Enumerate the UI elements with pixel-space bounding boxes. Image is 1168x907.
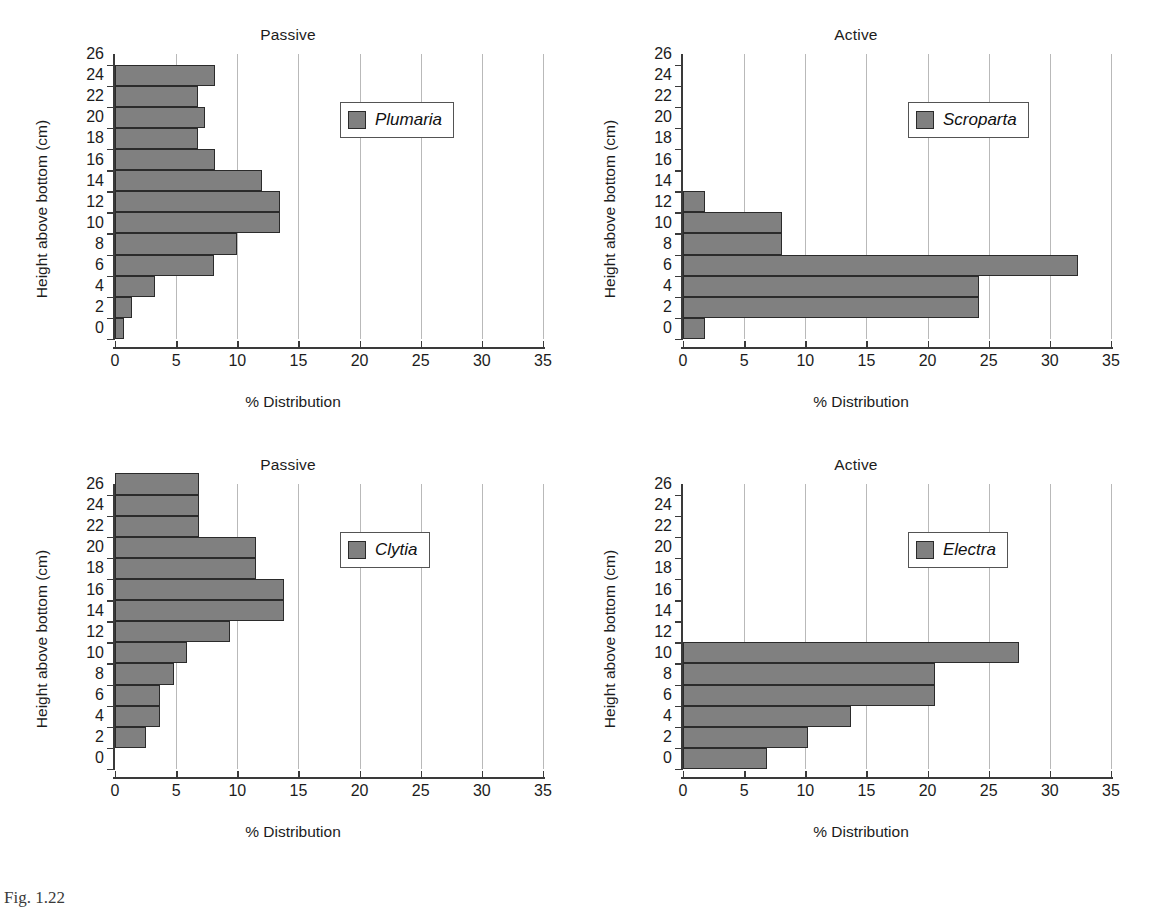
bar — [683, 212, 782, 233]
x-axis-label: % Distribution — [63, 823, 523, 841]
x-axis-tick-label: 30 — [1041, 782, 1059, 800]
x-axis-tick — [237, 341, 238, 348]
legend-swatch-icon — [348, 111, 366, 129]
gridline — [237, 484, 238, 769]
y-axis-tick — [675, 318, 683, 319]
panel-clytia: Passive051015202530350246810121416182022… — [8, 450, 568, 880]
bar — [115, 255, 214, 276]
y-axis-tick-label: 22 — [654, 87, 672, 105]
y-axis-tick — [675, 170, 683, 171]
x-axis-tick — [683, 341, 684, 348]
y-axis-tick — [107, 128, 115, 129]
y-axis-tick — [107, 149, 115, 150]
y-axis-tick-label: 14 — [654, 172, 672, 190]
y-axis-tick-label: 24 — [86, 66, 104, 84]
y-axis-tick — [107, 170, 115, 171]
x-axis-tick-label: 30 — [473, 782, 491, 800]
y-axis-tick — [107, 212, 115, 213]
legend[interactable]: Scroparta — [908, 102, 1029, 138]
y-axis-tick-label: 16 — [86, 151, 104, 169]
x-axis-tick — [928, 341, 929, 348]
gridline — [543, 54, 544, 339]
y-axis-tick-label: 8 — [663, 665, 672, 683]
x-axis-tick — [1050, 341, 1051, 348]
y-axis-tick-label: 4 — [95, 707, 104, 725]
plot-area: 0510152025303502468101214161820222426Plu… — [113, 54, 543, 339]
legend[interactable]: Plumaria — [340, 102, 454, 138]
x-axis-tick-label: 20 — [919, 782, 937, 800]
x-axis-tick-label: 35 — [534, 352, 552, 370]
y-axis-tick-label: 10 — [86, 644, 104, 662]
y-axis-tick-label: 24 — [86, 496, 104, 514]
bar — [683, 727, 808, 748]
y-axis-tick — [107, 276, 115, 277]
y-axis-tick — [675, 516, 683, 517]
y-axis-tick-label: 6 — [95, 256, 104, 274]
x-axis-tick-label: 35 — [1102, 782, 1120, 800]
y-axis-tick-label: 0 — [95, 319, 104, 337]
y-axis-tick-label: 12 — [654, 193, 672, 211]
bar — [683, 663, 935, 684]
x-axis-tick-label: 5 — [172, 352, 181, 370]
x-axis-tick-label: 15 — [290, 352, 308, 370]
legend[interactable]: Electra — [908, 532, 1008, 568]
y-axis-tick — [675, 642, 683, 643]
y-axis-tick — [675, 495, 683, 496]
y-axis-tick-label: 22 — [86, 517, 104, 535]
legend[interactable]: Clytia — [340, 532, 430, 568]
y-axis-tick — [107, 297, 115, 298]
bar — [683, 276, 979, 297]
y-axis-tick — [107, 339, 115, 340]
x-axis-tick — [115, 341, 116, 348]
y-axis-tick-label: 20 — [654, 538, 672, 556]
panel-electra: Active0510152025303502468101214161820222… — [576, 450, 1136, 880]
y-axis-tick-label: 20 — [86, 538, 104, 556]
panel-plumaria: Passive051015202530350246810121416182022… — [8, 20, 568, 450]
x-axis-line — [113, 347, 545, 349]
x-axis-tick-label: 25 — [980, 782, 998, 800]
bar — [683, 233, 782, 254]
bar — [115, 473, 199, 494]
bar — [115, 107, 205, 128]
x-axis-label: % Distribution — [63, 393, 523, 411]
bar — [115, 276, 155, 297]
x-axis-tick — [805, 771, 806, 778]
y-axis-tick-label: 14 — [86, 172, 104, 190]
x-axis-tick-label: 5 — [740, 352, 749, 370]
y-axis-tick-label: 26 — [654, 45, 672, 63]
bar — [683, 685, 935, 706]
x-axis-tick — [176, 771, 177, 778]
y-axis-tick-label: 18 — [654, 559, 672, 577]
gridline — [928, 484, 929, 769]
x-axis-tick — [298, 771, 299, 778]
panel-title: Passive — [8, 456, 568, 474]
y-axis-tick-label: 4 — [663, 277, 672, 295]
bar — [115, 558, 256, 579]
y-axis-tick-label: 0 — [663, 319, 672, 337]
x-axis-tick-label: 15 — [858, 352, 876, 370]
y-axis-tick — [675, 65, 683, 66]
x-axis-tick-label: 25 — [412, 352, 430, 370]
legend-swatch-icon — [916, 111, 934, 129]
gridline — [360, 54, 361, 339]
y-axis-label: Height above bottom (cm) — [33, 509, 51, 769]
x-axis-tick-label: 20 — [351, 352, 369, 370]
x-axis-tick-label: 30 — [473, 352, 491, 370]
x-axis-tick — [866, 771, 867, 778]
y-axis-tick — [675, 685, 683, 686]
y-axis-tick-label: 20 — [654, 108, 672, 126]
bar — [115, 621, 230, 642]
y-axis-tick-label: 2 — [95, 728, 104, 746]
legend-label: Clytia — [375, 540, 418, 560]
x-axis-line — [681, 777, 1113, 779]
y-axis-tick — [675, 191, 683, 192]
y-axis-tick-label: 12 — [86, 623, 104, 641]
y-axis-tick — [675, 706, 683, 707]
x-axis-tick-label: 10 — [796, 782, 814, 800]
y-axis-tick — [675, 600, 683, 601]
y-axis-label: Height above bottom (cm) — [601, 79, 619, 339]
y-axis-tick — [107, 685, 115, 686]
y-axis-tick — [107, 86, 115, 87]
y-axis-tick-label: 8 — [663, 235, 672, 253]
y-axis-tick — [107, 769, 115, 770]
